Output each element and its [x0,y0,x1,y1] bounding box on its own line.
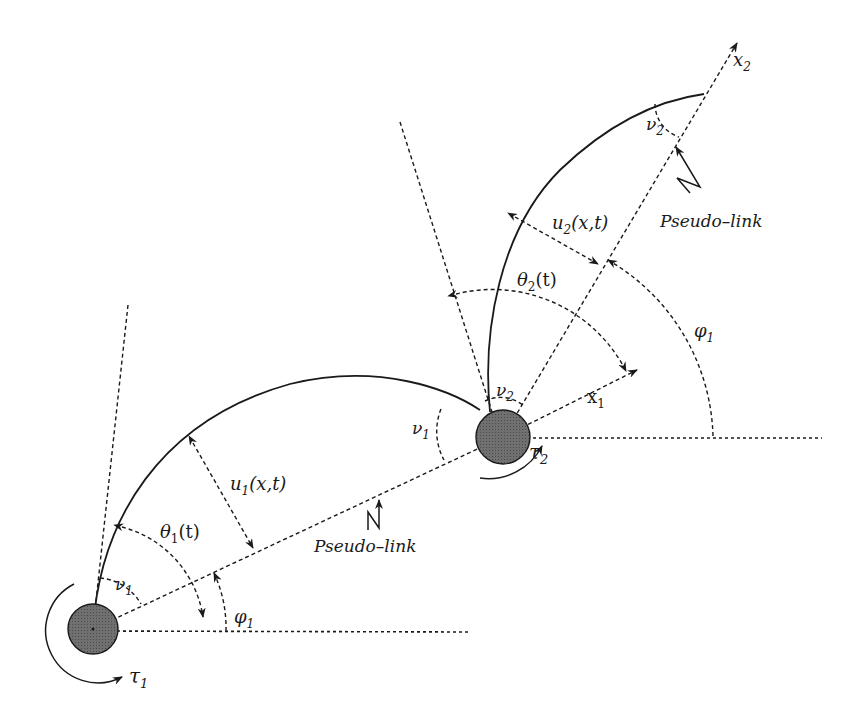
pseudo-link-1-pointer [368,500,379,530]
pseudo-link-2-pointer [676,147,700,193]
label-tau1: τ1 [129,664,148,691]
flexible-link-1 [93,376,480,629]
horizontal-ref-1 [93,631,470,632]
phi1-arc-joint2 [608,260,713,436]
label-nu1-joint2: ν1 [412,418,430,442]
diagram-svg: τ1 τ2 ν1 ν1 ν2 ν2 θ1(t) θ2(t) φ1 φ1 u1(x… [0,0,861,724]
label-x1: x1 [587,386,605,411]
joint-1-center [92,628,95,631]
flexible-link-2 [488,94,704,412]
label-nu1-joint1: ν1 [115,574,133,598]
label-phi1-joint2: φ1 [694,320,714,345]
label-nu2-joint2: ν2 [496,380,514,404]
label-nu2-tip: ν2 [646,114,664,138]
joint-2 [476,410,530,464]
label-pseudo-link-1: Pseudo–link [313,536,416,556]
pseudo-link-1-line [93,437,503,629]
label-u1: u1(x,t) [230,473,286,498]
label-pseudo-link-2: Pseudo–link [659,211,762,231]
label-theta1: θ1(t) [160,521,200,546]
manipulator-diagram: τ1 τ2 ν1 ν1 ν2 ν2 θ1(t) θ2(t) φ1 φ1 u1(x… [0,0,861,724]
label-phi1-joint1: φ1 [234,606,254,631]
theta2-arc [456,289,626,371]
label-theta2: θ2(t) [517,269,557,294]
tangent-line-2 [400,122,492,412]
label-u2: u2(x,t) [552,212,608,237]
nu1-arc-joint2 [437,409,444,460]
x2-axis [503,43,737,437]
phi1-arc-joint1 [214,573,226,631]
label-tau2: τ2 [529,440,548,467]
label-x2: x2 [733,49,751,74]
